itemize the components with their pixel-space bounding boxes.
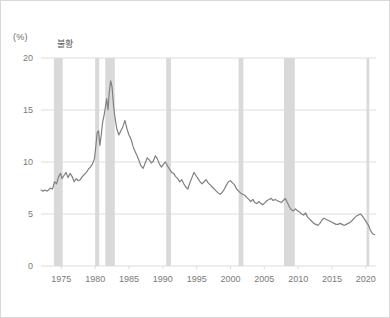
chart-figure: (%) 불황 05101520 197519801985199019952000…: [0, 0, 390, 318]
x-tick-label: 1985: [119, 274, 139, 284]
y-axis-tick-labels: 05101520: [23, 53, 33, 271]
gridlines: [41, 58, 376, 266]
y-tick-label: 5: [28, 209, 33, 219]
x-tick-label: 2005: [254, 274, 274, 284]
x-tick-label: 1995: [187, 274, 207, 284]
x-tick-label: 2000: [220, 274, 240, 284]
rate-line-series: [41, 81, 375, 235]
x-tick-label: 2015: [322, 274, 342, 284]
line-chart-plot: 05101520 1975198019851990199520002005201…: [1, 1, 390, 318]
x-tick-label: 2020: [356, 274, 376, 284]
y-tick-label: 20: [23, 53, 33, 63]
y-tick-label: 0: [28, 261, 33, 271]
y-tick-label: 10: [23, 157, 33, 167]
x-tick-label: 1990: [153, 274, 173, 284]
x-tick-label: 1975: [51, 274, 71, 284]
y-tick-label: 15: [23, 105, 33, 115]
x-axis-tick-labels: 1975198019851990199520002005201020152020: [51, 266, 376, 284]
x-tick-label: 1980: [85, 274, 105, 284]
x-tick-label: 2010: [288, 274, 308, 284]
